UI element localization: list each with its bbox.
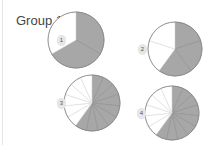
pie-number-badge: 2 xyxy=(138,44,147,55)
fraction-pies xyxy=(0,0,210,145)
pie-number-badge: 4 xyxy=(137,108,146,119)
pie-number-badge: 1 xyxy=(57,35,66,46)
pie-chart-2 xyxy=(148,22,202,76)
pie-chart-3 xyxy=(64,75,120,131)
pie-number-badge: 3 xyxy=(57,98,66,109)
pie-chart-4 xyxy=(145,86,199,140)
